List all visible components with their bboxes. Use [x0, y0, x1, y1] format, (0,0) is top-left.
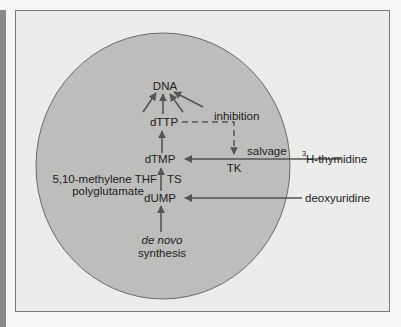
input-thymidine: H-thymidine — [306, 153, 367, 165]
label-inhibition: inhibition — [214, 110, 259, 122]
node-dump: dUMP — [144, 192, 176, 204]
cell-circle — [36, 33, 290, 299]
label-de-novo: de novo — [142, 234, 184, 246]
thymidine-pathway-diagram: DNA dTTP dTMP dUMP de novo synthesis TS … — [0, 0, 401, 327]
enzyme-ts: TS — [167, 173, 182, 185]
input-deoxyuridine: deoxyuridine — [305, 192, 370, 204]
label-synthesis: synthesis — [138, 247, 186, 259]
node-dna: DNA — [153, 80, 178, 92]
cofactor-line1: 5,10-methylene THF — [52, 173, 157, 185]
node-dtmp: dTMP — [145, 153, 176, 165]
cofactor-line2: polyglutamate — [72, 185, 144, 197]
label-salvage: salvage — [247, 145, 287, 157]
node-dttp: dTTP — [150, 116, 178, 128]
enzyme-tk: TK — [227, 162, 242, 174]
